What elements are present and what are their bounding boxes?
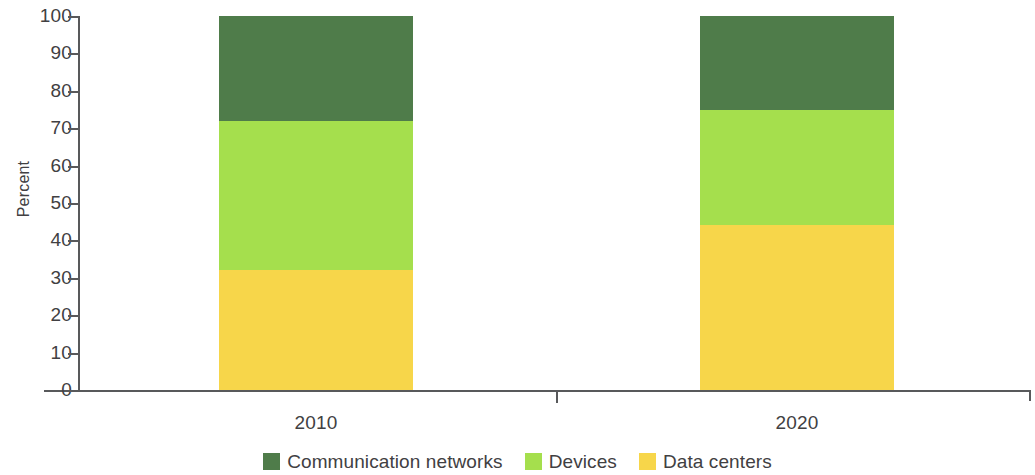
y-axis-tick-mark	[68, 16, 79, 18]
bar-segment	[700, 110, 894, 226]
y-axis-tick-label: 70	[10, 118, 72, 137]
bar-stack	[219, 16, 413, 390]
y-axis-tick-mark	[68, 240, 79, 242]
y-axis-tick-mark	[68, 53, 79, 55]
y-axis-tick-mark	[68, 203, 79, 205]
y-axis-tick-label: 100	[10, 6, 72, 25]
bar-segment	[700, 16, 894, 110]
y-axis-tick-label: 20	[10, 305, 72, 324]
stacked-bar-chart: 1009080706050403020100 Percent 20102020 …	[0, 0, 1035, 475]
y-axis-tick: 70	[0, 128, 140, 130]
bar-stack	[700, 16, 894, 390]
y-axis-tick: 40	[0, 240, 140, 242]
y-axis-tick-mark	[68, 278, 79, 280]
legend-label: Communication networks	[287, 452, 503, 471]
x-axis-tick-label: 2020	[717, 412, 877, 434]
y-axis-tick: 20	[0, 315, 140, 317]
x-axis-tick-mark	[556, 392, 558, 403]
legend-item: Data centers	[639, 452, 772, 471]
bar-segment	[700, 225, 894, 390]
y-axis-title: Percent	[15, 139, 33, 239]
bar-segment	[219, 16, 413, 121]
y-axis-tick: 0	[0, 390, 140, 392]
y-axis-tick-mark	[68, 166, 79, 168]
y-axis-tick-mark	[68, 353, 79, 355]
y-axis-tick: 30	[0, 278, 140, 280]
legend-item: Devices	[525, 452, 617, 471]
y-axis-tick-mark	[68, 91, 79, 93]
x-axis-tick-label: 2010	[236, 412, 396, 434]
y-axis-tick-mark	[68, 315, 79, 317]
legend-label: Devices	[549, 452, 617, 471]
y-axis-tick: 100	[0, 16, 140, 18]
chart-legend: Communication networksDevicesData center…	[0, 452, 1035, 471]
y-axis-tick-label: 90	[10, 43, 72, 62]
legend-swatch-icon	[639, 453, 656, 470]
y-axis-tick: 10	[0, 353, 140, 355]
bar-segment	[219, 121, 413, 271]
y-axis-tick-label: 80	[10, 81, 72, 100]
legend-swatch-icon	[263, 453, 280, 470]
legend-item: Communication networks	[263, 452, 503, 471]
x-axis-right-end-tick	[1029, 390, 1031, 401]
legend-label: Data centers	[663, 452, 772, 471]
x-axis-line	[44, 390, 1031, 392]
legend-swatch-icon	[525, 453, 542, 470]
y-axis-tick-label: 30	[10, 268, 72, 287]
y-axis-tick-mark	[68, 390, 79, 392]
y-axis-tick: 90	[0, 53, 140, 55]
y-axis-tick-label: 0	[10, 380, 72, 399]
y-axis-tick: 80	[0, 91, 140, 93]
y-axis-tick-mark	[68, 128, 79, 130]
plot-area: 1009080706050403020100 Percent 20102020	[0, 0, 1035, 400]
bar-segment	[219, 270, 413, 390]
y-axis-tick-label: 10	[10, 343, 72, 362]
